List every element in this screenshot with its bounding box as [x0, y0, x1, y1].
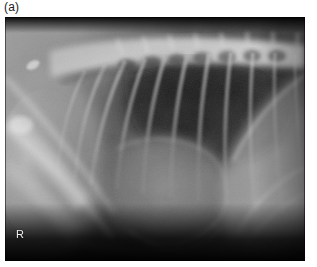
radiograph-canvas — [5, 17, 305, 261]
radiograph-image: R — [5, 17, 305, 261]
panel-label: (a) — [4, 1, 19, 14]
collimation-right — [257, 17, 305, 261]
figure-panel: (a) — [0, 0, 317, 267]
side-marker-r: R — [16, 228, 24, 240]
